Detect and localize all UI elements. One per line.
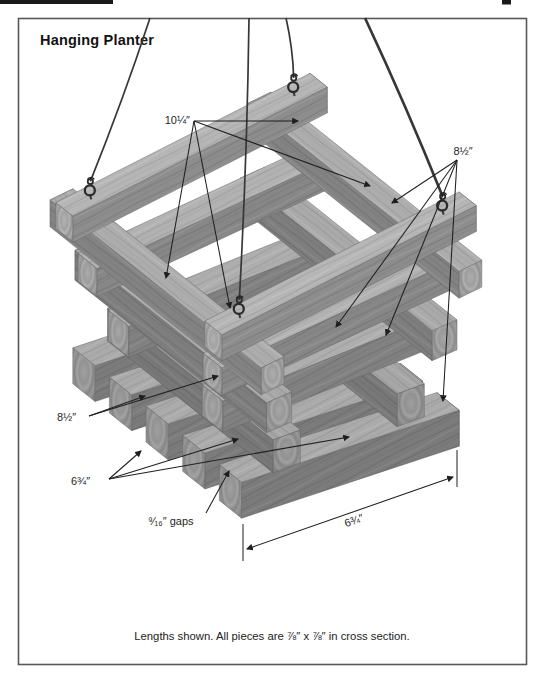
callout-arrow (392, 160, 457, 203)
figure-caption: Lengths shown. All pieces are ⅞″ x ⅞″ in… (134, 630, 410, 642)
top-left-crop-bar (0, 0, 113, 4)
figure-page: Hanging Planter 10¼″8½″8½″6¾″⁹⁄₁₆″ gaps … (0, 0, 543, 674)
callout-label: 8½″ (453, 145, 472, 157)
callout-arrow (109, 451, 141, 479)
top-right-crop-mark (502, 0, 511, 5)
hanging-planter-figure: Hanging Planter 10¼″8½″8½″6¾″⁹⁄₁₆″ gaps … (0, 0, 543, 674)
callout-label: 8½″ (57, 411, 76, 423)
figure-title: Hanging Planter (40, 32, 154, 48)
hanging-wire (286, 18, 294, 78)
callout-label: 6¾″ (71, 475, 90, 487)
callout-label: 10¼″ (165, 114, 190, 126)
callout-label: ⁹⁄₁₆″ gaps (148, 515, 194, 527)
hanging-wire (365, 18, 443, 197)
